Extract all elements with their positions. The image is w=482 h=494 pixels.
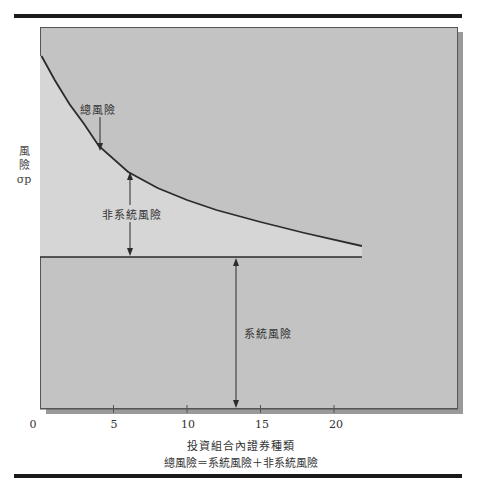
y-label-line-1: 風 (14, 145, 34, 159)
y-label-line-3: σp (14, 173, 34, 187)
systematic-risk-label: 系統風險 (244, 325, 292, 341)
bottom-rule (14, 474, 462, 478)
x-tick-20: 20 (329, 418, 343, 431)
x-tick-0: 0 (30, 418, 37, 431)
y-label-line-2: 險 (14, 159, 34, 173)
unsystematic-risk-label: 非系統風險 (102, 206, 162, 222)
y-axis-label: 風 險 σp (14, 145, 34, 187)
systematic-risk-arrow (233, 258, 239, 408)
x-tick-10: 10 (181, 418, 195, 431)
x-tick-5: 5 (111, 418, 118, 431)
total-risk-label: 總風險 (80, 101, 116, 117)
risk-formula: 總風險＝系統風險＋非系統風險 (0, 454, 482, 470)
unsystematic-risk-area (40, 56, 362, 257)
x-tick-15: 15 (255, 418, 269, 431)
x-axis-label: 投資組合內證券種類 (0, 437, 482, 453)
risk-chart (0, 0, 482, 494)
